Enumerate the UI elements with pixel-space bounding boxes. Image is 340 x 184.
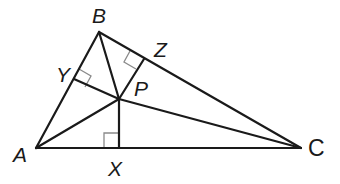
label-b: B <box>92 4 106 27</box>
label-a: A <box>11 143 27 166</box>
segment-py <box>74 79 119 99</box>
label-c: C <box>308 135 325 161</box>
label-y: Y <box>56 63 72 86</box>
right-angle-mark-x <box>104 133 119 148</box>
label-x: X <box>107 157 123 180</box>
segment-pc <box>119 99 301 148</box>
label-z: Z <box>153 38 168 61</box>
right-angle-mark-z <box>124 51 136 69</box>
label-p: P <box>134 77 148 100</box>
triangle-diagram: B Z Y P A X C <box>0 0 340 184</box>
side-bc <box>99 32 301 148</box>
